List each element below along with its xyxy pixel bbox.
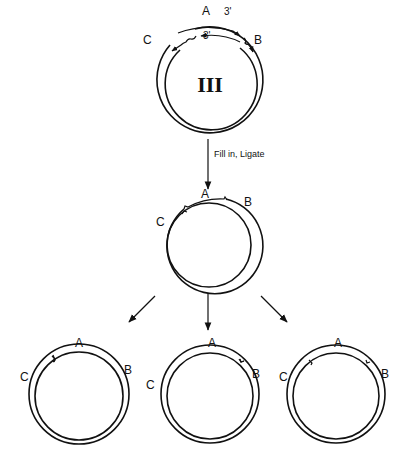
step-label: Fill in, Ligate [214, 149, 265, 159]
inner-strand [35, 352, 123, 440]
label-c: C [143, 33, 152, 47]
product-right: A B C [279, 336, 389, 443]
product-center: A B C [146, 336, 260, 443]
nick-a-b [366, 360, 370, 363]
label-b: B [124, 363, 132, 377]
label-3prime-outer: 3' [224, 6, 232, 17]
label-a: A [75, 336, 83, 350]
product-left: A B C [20, 336, 132, 444]
label-b: B [254, 33, 262, 47]
branch-arrows [129, 293, 287, 330]
label-a: A [334, 336, 342, 350]
label-c: C [146, 378, 155, 392]
label-b: B [244, 195, 252, 209]
inner-strand [167, 353, 253, 439]
inner-strand [167, 203, 251, 287]
outer-strand [287, 345, 385, 443]
outer-strand [161, 345, 259, 443]
inner-strand [293, 353, 379, 439]
plasmid-name: III [197, 72, 223, 97]
wavy-extension-c [172, 36, 196, 51]
arrow-to-right-product [261, 296, 287, 322]
step-arrow: Fill in, Ligate [208, 139, 265, 189]
label-a: A [202, 4, 210, 18]
label-c: C [156, 215, 165, 229]
arrow-to-left-product [129, 296, 155, 322]
wavy-extension-b [244, 38, 253, 52]
label-c: C [20, 370, 29, 384]
label-b: B [381, 367, 389, 381]
middle-plasmid: A B C [156, 187, 263, 294]
plasmid-iii: A 3' 3' C B III [143, 4, 263, 133]
label-a: A [208, 336, 216, 350]
outer-strand [29, 344, 129, 444]
nick-a-b [239, 359, 244, 362]
label-a: A [201, 187, 209, 201]
label-c: C [279, 370, 288, 384]
label-3prime-inner: 3' [203, 30, 211, 41]
plasmid-diagram: A 3' 3' C B III Fill in, Ligate A B C A … [0, 0, 410, 461]
label-b: B [252, 367, 260, 381]
